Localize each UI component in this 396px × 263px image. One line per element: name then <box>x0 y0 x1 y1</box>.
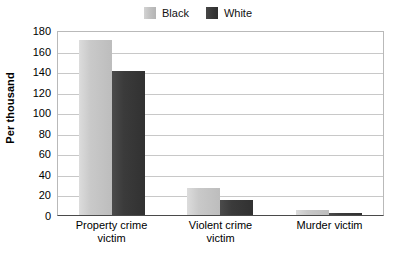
bar-group-1 <box>79 32 145 215</box>
plot-area <box>57 31 384 216</box>
y-axis-tick-0: 0 <box>45 211 51 222</box>
y-axis-tick-labels: 180160140120100806040200 <box>18 31 54 216</box>
y-axis-tick-100: 100 <box>33 108 51 119</box>
bar-group-2 <box>187 32 253 215</box>
y-axis-tick-60: 60 <box>39 149 51 160</box>
legend-label-black: Black <box>162 7 189 19</box>
bar-black-2 <box>187 188 220 215</box>
y-axis-tick-140: 140 <box>33 67 51 78</box>
x-axis-category-labels: Property crime victimViolent crime victi… <box>57 219 384 259</box>
bar-black-3 <box>296 210 329 215</box>
y-axis-title: Per thousand <box>2 0 18 216</box>
x-axis-label-1: Property crime victim <box>62 219 162 245</box>
bar-series-container <box>58 32 383 215</box>
y-axis-tick-180: 180 <box>33 26 51 37</box>
y-axis-title-text: Per thousand <box>4 72 16 144</box>
x-axis-label-2: Violent crime victim <box>171 219 271 245</box>
legend-swatch-black <box>144 7 156 19</box>
legend-label-white: White <box>224 7 252 19</box>
bar-group-3 <box>296 32 362 215</box>
y-axis-tick-160: 160 <box>33 46 51 57</box>
x-axis-label-3: Murder victim <box>280 219 380 232</box>
legend-item-white: White <box>206 7 252 19</box>
y-axis-tick-40: 40 <box>39 169 51 180</box>
bar-white-3 <box>329 213 362 215</box>
bar-white-1 <box>112 71 145 215</box>
bar-chart: Black White Per thousand 180160140120100… <box>0 0 396 263</box>
y-axis-tick-80: 80 <box>39 128 51 139</box>
legend-item-black: Black <box>144 7 189 19</box>
chart-legend: Black White <box>0 7 396 19</box>
legend-swatch-white <box>206 7 218 19</box>
y-axis-tick-20: 20 <box>39 190 51 201</box>
bar-black-1 <box>79 40 112 215</box>
y-axis-tick-120: 120 <box>33 87 51 98</box>
bar-white-2 <box>220 200 253 215</box>
